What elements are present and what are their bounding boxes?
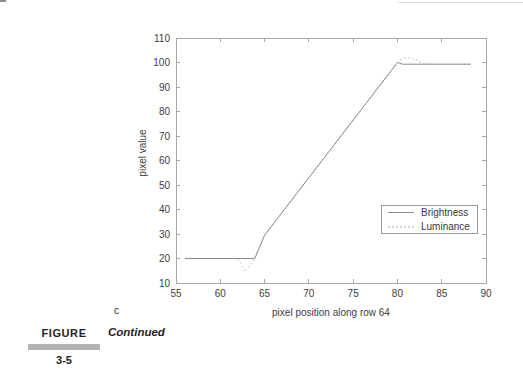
x-tick-label: 60 [215, 288, 227, 299]
subplot-label: c [114, 305, 119, 316]
y-tick-label: 100 [153, 57, 170, 68]
legend-item-luminance: Luminance [388, 221, 477, 233]
x-tick-label: 90 [480, 288, 492, 299]
figure-caption-bar [28, 344, 100, 350]
legend-label-luminance: Luminance [421, 221, 470, 232]
luminance-line [185, 57, 471, 272]
x-tick-label: 55 [170, 288, 182, 299]
y-tick-label: 70 [159, 131, 171, 142]
line-chart: 5560657075808590102030405060708090100110 [0, 0, 523, 378]
x-tick-label: 65 [259, 288, 271, 299]
y-tick-label: 10 [159, 278, 171, 289]
book-page: 5560657075808590102030405060708090100110… [0, 0, 523, 378]
plot-box [176, 38, 486, 283]
y-tick-label: 80 [159, 106, 171, 117]
y-tick-label: 90 [159, 82, 171, 93]
legend: Brightness Luminance [381, 205, 478, 234]
x-tick-label: 85 [436, 288, 448, 299]
figure-caption-continued: Continued [108, 326, 165, 338]
x-axis-label: pixel position along row 64 [176, 307, 486, 318]
y-tick-label: 110 [154, 33, 170, 44]
y-tick-label: 60 [159, 155, 171, 166]
legend-luminance-line-icon [388, 226, 414, 228]
y-axis-label: pixel value [137, 129, 148, 176]
figure-caption-number: 3-5 [28, 354, 100, 366]
x-tick-label: 75 [348, 288, 360, 299]
y-tick-label: 40 [159, 204, 171, 215]
y-tick-label: 50 [159, 180, 171, 191]
legend-item-brightness: Brightness [388, 207, 477, 219]
legend-brightness-line-icon [388, 212, 414, 213]
x-tick-label: 70 [303, 288, 315, 299]
x-tick-label: 80 [392, 288, 404, 299]
y-tick-label: 20 [159, 253, 171, 264]
figure-caption-word: FIGURE [28, 327, 100, 339]
legend-label-brightness: Brightness [421, 207, 468, 218]
y-tick-label: 30 [159, 229, 171, 240]
